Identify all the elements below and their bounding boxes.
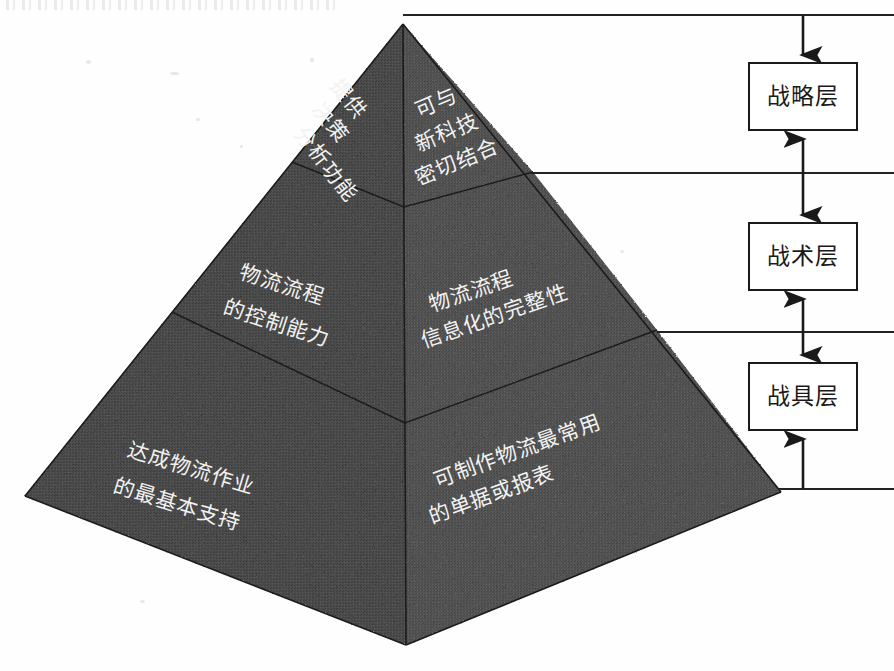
flow-box-tactical[interactable]: 战术层 (748, 222, 858, 291)
flow-box-tool[interactable]: 战具层 (748, 362, 858, 431)
diagram-canvas: 提供 决策 分析功能 可与 新科技 密切结合 物流流程 的控制能力 物流流程 信… (0, 0, 894, 671)
flow-box-strategic[interactable]: 战略层 (748, 62, 858, 131)
